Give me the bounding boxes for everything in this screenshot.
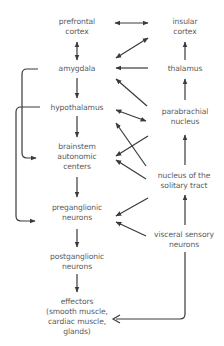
node-parabrachial-nucleus: parabrachial nucleus (148, 107, 222, 127)
node-nucleus-solitary-tract: nucleus of the solitary tract (144, 171, 224, 191)
edge-nts-brainstem (116, 160, 146, 179)
edge-parabrachial-brainstem (116, 136, 148, 156)
node-effectors: effectors (smooth muscle, cardiac muscle… (32, 297, 122, 337)
node-thalamus: thalamus (150, 64, 220, 74)
edge-visceral-effectors (116, 252, 185, 319)
node-prefrontal-cortex: prefrontal cortex (42, 17, 112, 37)
node-visceral-sensory-neurons: visceral sensory neurons (144, 230, 224, 250)
edge-hypothalamus-parabrachial (116, 110, 146, 121)
edge-nts-preganglionic (116, 198, 148, 216)
edge-parabrachial-amygdala (116, 79, 147, 106)
edge-amygdala-brainstem (22, 69, 38, 158)
node-brainstem-autonomic-centers: brainstem autonomic centers (37, 142, 117, 172)
node-postganglionic-neurons: postganglionic neurons (35, 252, 119, 272)
node-hypothalamus: hypothalamus (37, 103, 117, 113)
node-amygdala: amygdala (42, 64, 112, 74)
edge-visceral-preganglionic (116, 222, 146, 236)
node-preganglionic-neurons: preganglionic neurons (35, 203, 119, 223)
edge-amygdala-insular (116, 38, 148, 58)
node-insular-cortex: insular cortex (150, 17, 220, 37)
autonomic-pathway-diagram: prefrontal cortex amygdala hypothalamus … (0, 0, 224, 346)
edge-nts-hypothalamus (116, 123, 146, 166)
